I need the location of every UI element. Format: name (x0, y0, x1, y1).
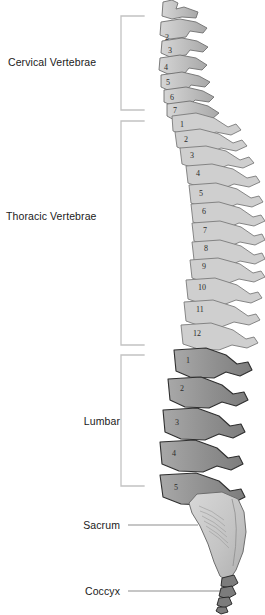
region-label-thoracic: Thoracic Vertebrae (6, 211, 120, 222)
region-label-lumbar: Lumbar (8, 416, 120, 427)
bracket-lumbar (121, 355, 144, 486)
vertebra-c3 (161, 38, 208, 57)
region-label-sacrum: Sacrum (8, 520, 120, 531)
bracket-thoracic (121, 121, 144, 345)
region-label-cervical: Cervical Vertebrae (8, 57, 120, 68)
bracket-cervical (121, 16, 144, 110)
region-brackets (121, 16, 144, 486)
coccyx-segment-3 (217, 597, 232, 608)
vertebra-c2 (160, 19, 207, 39)
vertebra-t12 (181, 323, 258, 350)
vertebra-t11 (184, 300, 260, 327)
vertebra-l3 (163, 408, 245, 440)
coccyx-segment-4 (216, 607, 228, 614)
coccyx-group (216, 575, 238, 614)
cervical-vertebrae-group (159, 0, 219, 121)
vertebra-c1 (162, 0, 198, 19)
lumbar-vertebrae-group (160, 348, 252, 505)
vertebra-c4 (159, 55, 207, 74)
vertebra-l1 (174, 348, 252, 378)
region-label-coccyx: Coccyx (8, 586, 120, 597)
sacrum-group (189, 492, 246, 582)
vertebra-l4 (160, 440, 243, 472)
vertebra-l2 (168, 377, 248, 408)
thoracic-vertebrae-group (172, 113, 265, 350)
